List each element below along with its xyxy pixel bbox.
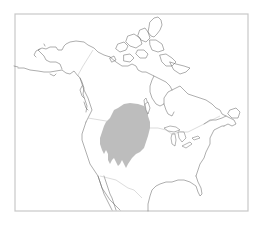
map-container xyxy=(0,0,262,225)
north-america-map xyxy=(0,0,262,225)
